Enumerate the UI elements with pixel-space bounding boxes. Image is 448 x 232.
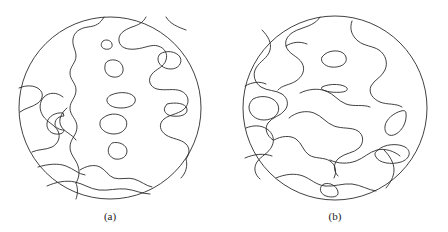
grain-boundary-path [70,17,104,183]
isolated-blob [322,84,348,92]
figure-root: — —— ————— —— ——— — ———— [0,0,448,232]
panel-b-isolated-blobs [249,51,409,197]
grain-boundary-path [47,181,150,194]
grain-boundary-path [278,17,320,90]
isolated-blob [385,111,406,136]
isolated-blob [101,40,112,49]
panel-b-figure [225,0,448,210]
grain-boundary-path [245,82,266,86]
grain-boundary-path [351,21,402,107]
grain-boundary-path [254,30,287,140]
grain-boundary-path [246,126,273,179]
grain-boundary-path [19,86,42,112]
grain-boundary-path [119,17,189,159]
isolated-blob [107,93,135,108]
grain-boundary-path [274,136,336,178]
isolated-blob [47,113,64,134]
isolated-blob [100,114,127,134]
isolated-blob [158,52,181,69]
isolated-blob [249,97,279,120]
isolated-blob [108,142,127,159]
grain-boundary-path [245,154,272,158]
panel-b-caption: (b) [305,210,365,222]
isolated-blob [321,51,346,67]
grain-boundary-path [166,17,186,30]
isolated-blob [105,60,123,77]
grain-boundary-path [286,42,307,46]
panel-a-isolated-blobs [47,40,187,159]
grain-boundary-path [76,183,78,199]
grain-boundary-path [80,166,152,187]
panel-a-caption: (a) [80,210,140,222]
panel-a-circle-outline [19,17,201,199]
panel-a-figure [0,0,230,210]
panel-b-grain-boundaries [245,17,402,191]
